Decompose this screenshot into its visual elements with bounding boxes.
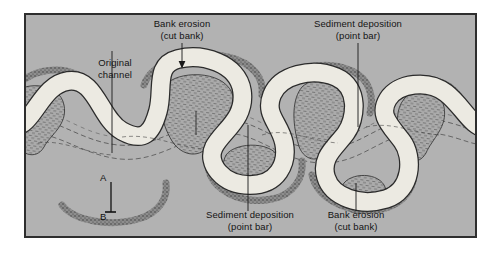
label-original-channel-line2: channel <box>78 69 152 81</box>
label-sediment-deposition-bottom-line2: (point bar) <box>180 221 320 233</box>
figure-container: Original channel Bank erosion (cut bank)… <box>0 0 499 254</box>
label-point-b: B <box>100 211 106 222</box>
label-original-channel: Original channel <box>78 57 152 80</box>
label-bank-erosion-top-line1: Bank erosion <box>130 18 234 30</box>
label-sediment-deposition-top: Sediment deposition (point bar) <box>288 18 428 41</box>
label-original-channel-line1: Original <box>78 57 152 69</box>
label-bank-erosion-bottom-line2: (cut bank) <box>304 221 408 233</box>
label-sediment-deposition-top-line2: (point bar) <box>288 30 428 42</box>
label-sediment-deposition-top-line1: Sediment deposition <box>288 18 428 30</box>
diagram-frame: Original channel Bank erosion (cut bank)… <box>24 13 477 238</box>
section-line-ab <box>105 182 116 212</box>
label-point-a: A <box>100 172 106 183</box>
label-bank-erosion-bottom-line1: Bank erosion <box>304 209 408 221</box>
label-bank-erosion-top: Bank erosion (cut bank) <box>130 18 234 41</box>
label-bank-erosion-bottom: Bank erosion (cut bank) <box>304 209 408 232</box>
meander-river-svg <box>26 15 475 236</box>
label-bank-erosion-top-line2: (cut bank) <box>130 30 234 42</box>
label-sediment-deposition-bottom-line1: Sediment deposition <box>180 209 320 221</box>
label-sediment-deposition-bottom: Sediment deposition (point bar) <box>180 209 320 232</box>
